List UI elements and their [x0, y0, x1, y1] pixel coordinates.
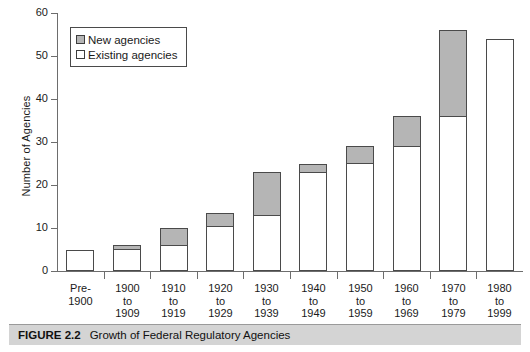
y-axis-tick-label-text: 30: [2, 136, 48, 147]
x-axis-tick: [476, 272, 477, 279]
legend-swatch-existing-agencies: [76, 50, 85, 59]
x-axis-label-1900-to-1909: 1900to1909: [104, 282, 151, 320]
figure-caption-band: FIGURE 2.2 Growth of Federal Regulatory …: [9, 324, 521, 345]
x-axis-tick: [104, 272, 105, 279]
x-axis-tick: [337, 272, 338, 279]
x-axis-label-line: to: [290, 295, 337, 308]
y-axis-tick-label: 50: [0, 50, 48, 61]
x-axis-tick: [150, 272, 151, 279]
x-axis-label-line: 1939: [243, 307, 290, 320]
x-axis-label-line: 1999: [476, 307, 523, 320]
x-axis-label-line: to: [197, 295, 244, 308]
bar-1920-to-1929: [206, 213, 234, 271]
x-axis-tick: [383, 272, 384, 279]
x-axis-label-line: 1979: [430, 307, 477, 320]
bar-segment-new-agencies: [254, 173, 280, 216]
bar-1910-to-1919: [160, 228, 188, 271]
x-axis-label-line: 1909: [104, 307, 151, 320]
y-axis-tick-label-text: 60: [2, 7, 48, 18]
legend-item-existing-agencies: Existing agencies: [76, 47, 178, 62]
y-axis-tick-label-text: 0: [2, 265, 48, 276]
x-axis-tick: [197, 272, 198, 279]
figure-container: Number of Agencies 0102030405060 Pre-190…: [0, 0, 530, 352]
x-axis-tick: [430, 272, 431, 279]
y-axis-tick-label-text: 10: [2, 222, 48, 233]
x-axis-label-line: to: [243, 295, 290, 308]
y-axis-tick: [51, 13, 58, 14]
chart-legend: New agencies Existing agencies: [70, 27, 187, 67]
bar-1900-to-1909: [113, 245, 141, 271]
x-axis-label-line: 1919: [150, 307, 197, 320]
x-axis-label-line: 1960: [383, 282, 430, 295]
x-axis-tick: [243, 272, 244, 279]
bar-1940-to-1949: [299, 164, 327, 272]
x-axis-label-line: 1940: [290, 282, 337, 295]
bar-segment-new-agencies: [114, 246, 140, 250]
y-axis-tick-label: 10: [0, 222, 48, 233]
y-axis-tick: [51, 185, 58, 186]
bar-segment-new-agencies: [394, 117, 420, 147]
x-axis-label-line: 1969: [383, 307, 430, 320]
x-axis-label-line: Pre-: [57, 282, 104, 295]
x-axis-label-1960-to-1969: 1960to1969: [383, 282, 430, 320]
y-axis-tick: [51, 142, 58, 143]
figure-number: FIGURE 2.2: [18, 329, 81, 341]
x-axis-label-line: to: [476, 295, 523, 308]
bar-segment-new-agencies: [347, 147, 373, 164]
x-axis-label-line: 1970: [430, 282, 477, 295]
bar-1930-to-1939: [253, 172, 281, 271]
x-axis-label-line: 1959: [337, 307, 384, 320]
legend-label-new-agencies: New agencies: [88, 34, 160, 46]
y-axis-tick: [51, 56, 58, 57]
chart-plot-area: Number of Agencies 0102030405060 Pre-190…: [0, 0, 530, 320]
x-axis-label-1970-to-1979: 1970to1979: [430, 282, 477, 320]
legend-item-new-agencies: New agencies: [76, 32, 178, 47]
x-axis-label-line: to: [104, 295, 151, 308]
x-axis-label-1980-to-1999: 1980to1999: [476, 282, 523, 320]
y-axis-tick-label: 60: [0, 7, 48, 18]
x-axis-label-line: to: [150, 295, 197, 308]
bar-1980-to-1999: [486, 39, 514, 271]
y-axis-tick-label-text: 50: [2, 50, 48, 61]
bar-pre-1900: [66, 250, 94, 272]
y-axis-tick-label: 20: [0, 179, 48, 190]
x-axis-label-1950-to-1959: 1950to1959: [337, 282, 384, 320]
y-axis-tick-label-text: 40: [2, 93, 48, 104]
y-axis-tick: [51, 271, 58, 272]
x-axis-label-line: 1930: [243, 282, 290, 295]
x-axis-label-1920-to-1929: 1920to1929: [197, 282, 244, 320]
bar-segment-new-agencies: [207, 214, 233, 227]
bar-segment-new-agencies: [440, 31, 466, 117]
x-axis-label-line: 1950: [337, 282, 384, 295]
x-axis-label-1940-to-1949: 1940to1949: [290, 282, 337, 320]
x-axis-label-line: 1920: [197, 282, 244, 295]
x-axis-label-line: 1929: [197, 307, 244, 320]
x-axis-label-line: to: [430, 295, 477, 308]
x-axis-label-1930-to-1939: 1930to1939: [243, 282, 290, 320]
x-axis-tick: [290, 272, 291, 279]
x-axis-label-line: 1910: [150, 282, 197, 295]
x-axis-label-line: to: [337, 295, 384, 308]
x-axis-label-line: 1900: [104, 282, 151, 295]
bar-1960-to-1969: [393, 116, 421, 271]
y-axis-tick-label-text: 20: [2, 179, 48, 190]
y-axis-tick: [51, 99, 58, 100]
bar-segment-new-agencies: [161, 229, 187, 246]
figure-title: Growth of Federal Regulatory Agencies: [90, 329, 291, 341]
x-axis-label-line: 1980: [476, 282, 523, 295]
legend-swatch-new-agencies: [76, 35, 85, 44]
legend-label-existing-agencies: Existing agencies: [88, 49, 178, 61]
x-axis-label-line: 1900: [57, 295, 104, 308]
y-axis-tick-label: 30: [0, 136, 48, 147]
bar-1950-to-1959: [346, 146, 374, 271]
y-axis-tick-label: 40: [0, 93, 48, 104]
y-axis-tick-label: 0: [0, 265, 48, 276]
x-axis-label-line: to: [383, 295, 430, 308]
y-axis-tick: [51, 228, 58, 229]
bar-1970-to-1979: [439, 30, 467, 271]
x-axis-label-pre-1900: Pre-1900: [57, 282, 104, 307]
bar-segment-new-agencies: [300, 165, 326, 174]
x-axis-label-line: 1949: [290, 307, 337, 320]
x-axis-label-1910-to-1919: 1910to1919: [150, 282, 197, 320]
